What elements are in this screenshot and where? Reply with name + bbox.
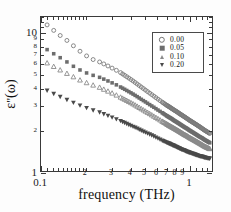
- y-tick-label: 9: [34, 34, 38, 42]
- data-point: [115, 83, 119, 87]
- data-point: [101, 112, 106, 116]
- y-tick: [41, 106, 44, 107]
- data-point: [65, 60, 69, 64]
- x-tick-label: 8: [173, 168, 177, 177]
- y-tick: [41, 89, 44, 90]
- legend-item[interactable]: 0.20: [156, 61, 201, 69]
- y-axis-title-eps: ε: [3, 103, 18, 109]
- data-point: [65, 71, 70, 75]
- x-tick: [53, 17, 54, 20]
- data-point: [58, 68, 63, 72]
- legend-item-label: 0.05: [170, 44, 184, 52]
- data-point: [78, 49, 82, 53]
- x-axis-title: frequency (THz): [40, 187, 213, 203]
- y-tick: [41, 27, 44, 28]
- data-point: [52, 52, 56, 56]
- data-point: [106, 79, 110, 83]
- data-point: [45, 23, 49, 27]
- x-tick: [86, 17, 87, 20]
- data-point: [102, 62, 106, 66]
- data-point: [98, 76, 102, 80]
- x-tick: [131, 17, 132, 20]
- x-tick: [196, 17, 197, 20]
- x-tick: [79, 168, 80, 171]
- data-point: [98, 60, 102, 64]
- x-tick: [63, 168, 64, 171]
- y-tick-label: 6: [34, 59, 38, 67]
- data-point: [78, 68, 82, 72]
- y-axis-title: ε"(ω): [3, 62, 19, 126]
- data-point: [45, 61, 50, 65]
- x-tick-label: 5: [142, 168, 146, 177]
- y-tick-label: 3: [34, 101, 38, 109]
- data-point: [114, 68, 118, 72]
- data-point: [101, 87, 106, 91]
- legend: 0.00 0.05 0.10 0.20: [152, 32, 204, 73]
- x-tick: [67, 168, 68, 171]
- x-tick: [202, 17, 203, 20]
- y-tick: [207, 33, 212, 34]
- filled-square-icon: [156, 44, 168, 52]
- legend-item[interactable]: 0.05: [156, 44, 201, 52]
- x-tick-label: 9: [180, 168, 184, 177]
- data-point: [85, 71, 89, 75]
- x-tick: [83, 17, 84, 20]
- x-tick: [75, 168, 76, 171]
- data-point: [71, 44, 75, 48]
- x-tick: [58, 17, 59, 20]
- x-tick: [75, 17, 76, 20]
- data-point: [114, 93, 119, 97]
- y-tick: [41, 17, 44, 18]
- data-point: [106, 114, 111, 118]
- series-0_10: [45, 61, 212, 151]
- filled-triangle-down-icon: [156, 61, 168, 69]
- x-tick: [47, 168, 48, 171]
- x-tick-label: 3: [109, 168, 113, 177]
- y-tick-label: 2: [34, 126, 38, 134]
- x-tick: [167, 17, 168, 20]
- y-tick-label: 5: [34, 70, 38, 78]
- data-point: [106, 64, 110, 68]
- data-point: [91, 74, 95, 78]
- x-tick: [53, 168, 54, 171]
- data-point: [51, 64, 56, 68]
- open-triangle-up-icon: [156, 53, 168, 61]
- y-axis-title-arg: (ω): [3, 79, 18, 98]
- x-tick: [47, 17, 48, 20]
- data-point: [85, 54, 89, 58]
- y-tick: [41, 22, 44, 23]
- y-axis-title-prime: ": [4, 98, 18, 103]
- y-tick: [209, 55, 212, 56]
- x-tick: [157, 17, 158, 20]
- x-tick: [190, 166, 191, 171]
- y-tick: [207, 173, 212, 174]
- data-point: [91, 58, 95, 62]
- x-tick: [71, 17, 72, 20]
- data-point: [106, 89, 111, 93]
- y-tick: [41, 55, 44, 56]
- open-circle-icon: [156, 36, 168, 44]
- x-tick: [79, 17, 80, 20]
- data-point: [114, 117, 119, 121]
- data-point: [71, 74, 76, 78]
- data-point: [110, 81, 114, 85]
- y-tick: [209, 27, 212, 28]
- data-point: [91, 83, 96, 87]
- y-tick: [41, 131, 44, 132]
- y-tick: [41, 173, 46, 174]
- y-tick-label: 4: [34, 84, 38, 92]
- data-point: [45, 89, 50, 93]
- x-tick: [63, 17, 64, 20]
- x-tick: [41, 166, 42, 171]
- x-tick-label: 6: [154, 168, 158, 177]
- y-tick: [209, 47, 212, 48]
- data-point: [52, 28, 56, 32]
- x-tick: [71, 168, 72, 171]
- x-tick-label: 0.1: [33, 176, 47, 188]
- data-point: [97, 85, 102, 89]
- data-point: [45, 48, 49, 52]
- x-tick: [67, 17, 68, 20]
- data-point: [78, 103, 83, 107]
- y-tick: [41, 39, 44, 40]
- x-tick-label: 4: [128, 168, 132, 177]
